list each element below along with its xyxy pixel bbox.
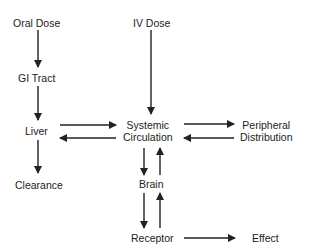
node-systemic-circulation: Systemic Circulation xyxy=(123,119,173,143)
node-liver: Liver xyxy=(25,125,48,137)
peripheral-line-1: Peripheral xyxy=(240,119,293,131)
node-iv-dose: IV Dose xyxy=(133,17,170,29)
node-clearance: Clearance xyxy=(15,179,63,191)
node-gi-tract: GI Tract xyxy=(18,72,55,84)
node-brain: Brain xyxy=(139,178,164,190)
node-effect: Effect xyxy=(252,232,279,244)
systemic-line-2: Circulation xyxy=(123,131,173,143)
systemic-line-1: Systemic xyxy=(123,119,173,131)
peripheral-line-2: Distribution xyxy=(240,131,293,143)
node-receptor: Receptor xyxy=(131,232,174,244)
node-oral-dose: Oral Dose xyxy=(13,17,60,29)
node-peripheral-distribution: Peripheral Distribution xyxy=(240,119,293,143)
